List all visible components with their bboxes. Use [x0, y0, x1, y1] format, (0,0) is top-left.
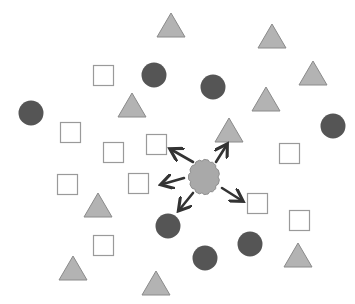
triangle-shape: [118, 93, 146, 117]
circle-shape: [238, 232, 263, 257]
circle-shape: [142, 63, 167, 88]
square-shape: [104, 143, 124, 163]
squares-group: [58, 66, 310, 256]
square-shape: [290, 211, 310, 231]
arrow: [222, 188, 241, 200]
triangle-shape: [252, 87, 280, 111]
triangle-shape: [157, 13, 185, 37]
square-shape: [61, 123, 81, 143]
triangle-shape: [299, 61, 327, 85]
circle-shape: [193, 246, 218, 271]
triangle-shape: [59, 256, 87, 280]
arrow: [172, 150, 193, 162]
square-shape: [94, 236, 114, 256]
cloud-group: [188, 159, 219, 194]
cloud-shape: [188, 159, 219, 194]
triangle-shape: [142, 271, 170, 295]
square-shape: [147, 135, 167, 155]
square-shape: [94, 66, 114, 86]
circle-shape: [201, 75, 226, 100]
arrow: [163, 178, 184, 184]
triangle-shape: [258, 24, 286, 48]
circle-shape: [321, 114, 346, 139]
circles-group: [19, 63, 346, 271]
square-shape: [280, 144, 300, 164]
circle-shape: [156, 214, 181, 239]
square-shape: [129, 174, 149, 194]
shapes-diagram: [0, 0, 355, 304]
arrow: [216, 146, 226, 162]
triangle-shape: [84, 193, 112, 217]
square-shape: [248, 194, 268, 214]
square-shape: [58, 175, 78, 195]
arrow: [180, 193, 193, 209]
circle-shape: [19, 101, 44, 126]
triangle-shape: [284, 243, 312, 267]
triangle-shape: [215, 118, 243, 142]
